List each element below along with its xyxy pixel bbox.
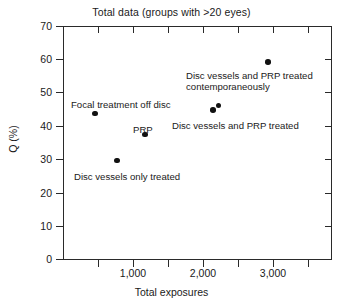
y-tick-right-10 — [325, 226, 332, 227]
x-tick-top-3500 — [308, 26, 309, 33]
x-tick-top-2000 — [203, 26, 204, 33]
data-point-disc-vessels-prp-a — [210, 107, 216, 113]
y-tick-label-0: 0 — [0, 253, 52, 265]
y-tick-60 — [56, 59, 64, 60]
data-point-disc-vessels-only — [114, 158, 120, 164]
x-tick-2500 — [238, 260, 239, 267]
x-tick-top-500 — [98, 26, 99, 33]
y-tick-70 — [56, 26, 64, 27]
x-tick-label-2000: 2,000 — [173, 267, 233, 279]
y-tick-0 — [56, 259, 64, 260]
y-tick-label-50: 50 — [0, 86, 52, 98]
x-tick-top-2500 — [238, 26, 239, 33]
y-tick-label-20: 20 — [0, 187, 52, 199]
y-tick-40 — [56, 126, 64, 127]
x-tick-3000 — [273, 260, 274, 267]
y-tick-30 — [56, 159, 64, 160]
y-tick-right-50 — [325, 92, 332, 93]
y-tick-label-70: 70 — [0, 20, 52, 32]
x-tick-2000 — [203, 260, 204, 267]
y-tick-right-40 — [325, 126, 332, 127]
y-tick-20 — [56, 193, 64, 194]
scatter-chart-figure: Total data (groups with >20 eyes) 0 10 2… — [0, 0, 343, 307]
x-axis-title: Total exposures — [0, 286, 343, 298]
y-tick-right-20 — [325, 193, 332, 194]
y-tick-label-10: 10 — [0, 220, 52, 232]
y-axis-title: Q (%) — [7, 109, 19, 169]
x-tick-1500 — [168, 260, 169, 267]
disc-vessels-prp-label: Disc vessels and PRP treated — [172, 120, 299, 132]
y-tick-label-60: 60 — [0, 53, 52, 65]
x-tick-1000 — [133, 260, 134, 267]
x-tick-500 — [98, 260, 99, 267]
y-tick-right-30 — [325, 159, 332, 160]
y-tick-right-60 — [325, 59, 332, 60]
y-tick-10 — [56, 226, 64, 227]
chart-title: Total data (groups with >20 eyes) — [0, 6, 343, 18]
data-point-contemporaneous — [265, 59, 271, 65]
x-tick-top-1000 — [133, 26, 134, 33]
disc-vessels-prp-contemporaneous-line2: contemporaneously — [186, 81, 270, 93]
x-tick-label-1000: 1,000 — [103, 267, 163, 279]
y-tick-50 — [56, 92, 64, 93]
disc-vessels-only-label: Disc vessels only treated — [74, 171, 180, 183]
x-tick-label-3000: 3,000 — [243, 267, 303, 279]
focal-treatment-label: Focal treatment off disc — [71, 99, 171, 111]
x-tick-3500 — [308, 260, 309, 267]
x-tick-top-1500 — [168, 26, 169, 33]
plot-area — [63, 26, 332, 260]
x-tick-top-3000 — [273, 26, 274, 33]
disc-vessels-prp-contemporaneous-line1: Disc vessels and PRP treated — [186, 70, 313, 82]
prp-label: PRP — [133, 124, 153, 136]
